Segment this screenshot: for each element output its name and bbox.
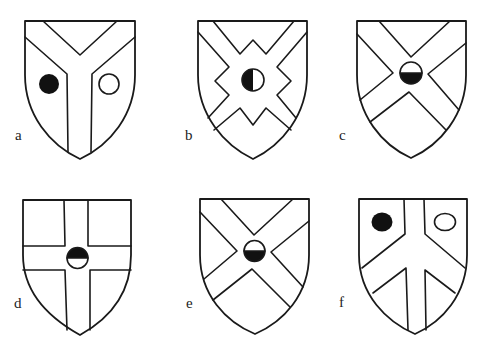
shield-e — [200, 199, 309, 334]
shield-c — [357, 21, 466, 158]
white-roundel-icon — [99, 74, 119, 94]
shield-b — [198, 21, 307, 159]
shield-d — [23, 200, 131, 335]
label-c: c — [339, 128, 346, 143]
black-roundel-icon — [39, 74, 59, 94]
label-a: a — [15, 128, 22, 143]
label-b: b — [185, 128, 193, 143]
shield-a — [25, 21, 135, 159]
label-d: d — [14, 296, 22, 311]
shield-f — [359, 199, 467, 334]
label-e: e — [186, 296, 193, 311]
white-roundel-icon — [435, 214, 456, 231]
shields-canvas — [0, 0, 484, 348]
heraldic-shields-figure: a b c d e f — [0, 0, 484, 348]
black-roundel-icon — [372, 213, 393, 232]
label-f: f — [339, 295, 344, 310]
